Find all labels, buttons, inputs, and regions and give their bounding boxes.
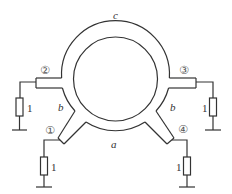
hybrid-ring-diagram: c a b b ① ② ③ ④ 1 1 1 1 bbox=[0, 0, 232, 194]
port-3-load-value: 1 bbox=[202, 102, 208, 114]
port-4-load-value: 1 bbox=[176, 161, 182, 173]
port-3-label: ③ bbox=[179, 64, 189, 77]
port-2-label: ② bbox=[40, 64, 50, 77]
label-right-section: b bbox=[170, 101, 176, 113]
port-3-stub bbox=[169, 78, 213, 98]
port-1-resistor bbox=[36, 157, 52, 187]
port-1-load-value: 1 bbox=[51, 161, 57, 173]
port-1-label: ① bbox=[45, 124, 55, 137]
port-4-label: ④ bbox=[178, 123, 188, 136]
ring-inner bbox=[74, 37, 158, 121]
port-2-resistor bbox=[12, 98, 27, 130]
label-top-section: c bbox=[113, 9, 118, 21]
port-2-stub bbox=[20, 78, 62, 98]
label-bottom-section: a bbox=[111, 138, 117, 150]
port-2-load-value: 1 bbox=[27, 102, 33, 114]
label-left-section: b bbox=[58, 101, 64, 113]
